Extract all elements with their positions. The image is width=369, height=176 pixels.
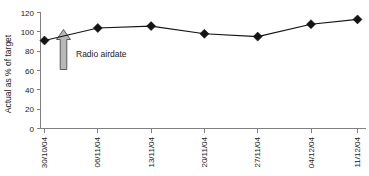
data-point-5[interactable] bbox=[307, 20, 316, 29]
x-axis-ticks: 30/10/04 06/11/04 13/11/04 20/11/04 27/1… bbox=[40, 129, 362, 169]
x-tick-label-3: 20/11/04 bbox=[200, 136, 209, 167]
y-tick-label-60: 60 bbox=[25, 67, 34, 76]
data-point-3[interactable] bbox=[200, 29, 209, 38]
y-tick-label-120: 120 bbox=[21, 9, 35, 18]
data-point-4[interactable] bbox=[253, 32, 262, 41]
line-chart: Actual as % of target 0 20 40 60 80 100 … bbox=[0, 0, 369, 176]
y-tick-label-0: 0 bbox=[30, 125, 35, 134]
x-tick-label-6: 11/12/04 bbox=[353, 136, 362, 167]
y-axis-ticks: 0 20 40 60 80 100 120 bbox=[21, 9, 41, 134]
x-tick-label-4: 27/11/04 bbox=[253, 136, 262, 167]
radio-airdate-label: Radio airdate bbox=[76, 49, 127, 59]
y-tick-label-80: 80 bbox=[25, 47, 34, 56]
y-tick-label-20: 20 bbox=[25, 105, 34, 114]
x-tick-label-5: 04/12/04 bbox=[307, 136, 316, 168]
data-point-0[interactable] bbox=[40, 36, 49, 45]
data-point-2[interactable] bbox=[147, 22, 156, 31]
data-point-6[interactable] bbox=[353, 15, 362, 24]
chart-figure: Actual as % of target 0 20 40 60 80 100 … bbox=[0, 0, 369, 176]
x-tick-label-0: 30/10/04 bbox=[40, 136, 49, 168]
y-tick-label-40: 40 bbox=[25, 86, 34, 95]
y-axis-title: Actual as % of target bbox=[3, 34, 13, 113]
data-point-1[interactable] bbox=[93, 24, 102, 33]
x-tick-label-1: 06/11/04 bbox=[93, 136, 102, 167]
y-tick-label-100: 100 bbox=[21, 28, 35, 37]
x-tick-label-2: 13/11/04 bbox=[147, 136, 156, 167]
